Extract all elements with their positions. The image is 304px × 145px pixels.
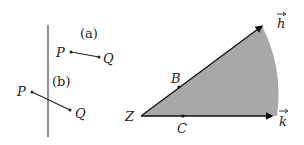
segment-b-end-label: Q <box>75 106 86 121</box>
point-q-b <box>69 109 72 112</box>
left-figure: (a) P Q (b) P Q <box>16 25 114 137</box>
vector-k-label-group: k <box>279 109 288 129</box>
vector-h-label-group: h <box>277 12 286 31</box>
point-b-label: B <box>170 71 181 86</box>
point-p-a <box>70 51 73 54</box>
segment-b <box>32 92 70 110</box>
segment-a <box>71 52 99 57</box>
right-figure: Z B C h k <box>124 12 288 136</box>
label-a: (a) <box>80 26 98 41</box>
point-q-a <box>98 56 101 59</box>
segment-b-start-label: P <box>16 84 26 99</box>
segment-a-start-label: P <box>55 45 65 60</box>
shaded-sector <box>141 26 278 116</box>
vector-h-label: h <box>277 16 285 31</box>
point-c-label: C <box>177 121 187 136</box>
vertex-z-label: Z <box>124 109 135 124</box>
point-p-b <box>31 91 34 94</box>
label-b: (b) <box>52 74 70 89</box>
point-c <box>181 114 184 117</box>
geometry-figure: (a) P Q (b) P Q Z B C h k <box>0 0 304 145</box>
vector-k-label: k <box>279 114 287 129</box>
segment-a-end-label: Q <box>103 51 114 66</box>
